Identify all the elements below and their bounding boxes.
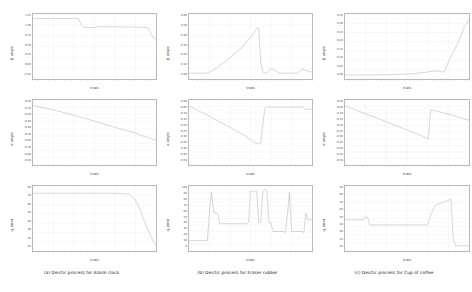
x-tick-label: – — [352, 80, 355, 81]
x-tick-label: – — [468, 166, 471, 167]
y-tick-label: 0.60 — [181, 14, 187, 17]
x-tick-label: – — [298, 166, 301, 167]
plot-svg — [189, 186, 312, 251]
x-tick-label: – — [371, 166, 374, 167]
y-tick-label: 90 — [340, 186, 343, 189]
x-tick-label: – — [389, 166, 392, 167]
x-tick-label: – — [106, 80, 109, 81]
y-tick-label: 0.00 — [181, 100, 187, 103]
x-tick-label: – — [380, 252, 383, 253]
x-axis-label: trials — [344, 172, 470, 176]
x-tick-label: – — [58, 252, 61, 253]
x-tick-label: – — [449, 166, 452, 167]
x-tick-marks: –––––––––––––––––––––––––––– — [344, 251, 470, 256]
x-tick-label: – — [362, 80, 365, 81]
x-tick-label: – — [366, 80, 369, 81]
y-tick-label: -0.50 — [180, 159, 187, 162]
y-tick-label: 0.00 — [337, 73, 343, 76]
x-tick-label: – — [53, 252, 56, 253]
x-axis-label: trials — [188, 258, 313, 262]
x-tick-label: – — [264, 80, 267, 81]
plot-area — [344, 185, 470, 252]
y-tick-label: 0 — [185, 245, 187, 248]
x-tick-label: – — [394, 80, 397, 81]
x-tick-label: – — [251, 166, 254, 167]
x-tick-label: – — [217, 166, 220, 167]
x-tick-label: – — [53, 80, 56, 81]
plot-area — [32, 13, 157, 80]
x-tick-label: – — [260, 166, 263, 167]
x-tick-label: – — [311, 166, 314, 167]
y-tick-label: 100 — [182, 186, 187, 189]
x-tick-label: – — [348, 252, 351, 253]
x-tick-label: – — [268, 80, 271, 81]
gridlines — [33, 14, 156, 79]
plot-svg — [345, 100, 469, 165]
x-tick-label: – — [204, 252, 207, 253]
x-tick-label: – — [42, 252, 45, 253]
x-tick-label: – — [247, 252, 250, 253]
x-tick-label: – — [117, 166, 120, 167]
y-tick-label: 0.30 — [337, 22, 343, 25]
x-tick-label: – — [412, 252, 415, 253]
x-tick-label: – — [289, 252, 292, 253]
y-tick-label: 30 — [28, 228, 31, 231]
y-tick-label: 50 — [28, 211, 31, 214]
x-tick-label: – — [112, 80, 115, 81]
x-tick-label: – — [225, 166, 228, 167]
x-tick-label: – — [112, 252, 115, 253]
y-tick-label: -0.10 — [24, 107, 31, 110]
x-tick-label: – — [36, 80, 39, 81]
x-tick-label: – — [408, 80, 411, 81]
x-tick-label: – — [234, 80, 237, 81]
x-tick-label: – — [144, 166, 147, 167]
x-tick-label: – — [468, 80, 471, 81]
x-tick-label: – — [36, 166, 39, 167]
caption-b: (b) Deictic process for Eraser rubber — [160, 270, 315, 275]
x-tick-label: – — [281, 252, 284, 253]
x-tick-label: – — [79, 166, 82, 167]
x-tick-label: – — [348, 166, 351, 167]
x-tick-label: – — [139, 252, 142, 253]
x-tick-label: – — [196, 166, 199, 167]
x-tick-label: – — [417, 80, 420, 81]
y-tick-label: 0.30 — [181, 44, 187, 47]
y-tick-label: 0.10 — [337, 56, 343, 59]
panel-a-qerror: q_error 8070605040302010 –––––––––––––––… — [4, 182, 159, 267]
x-tick-label: – — [187, 80, 190, 81]
x-tick-label: – — [85, 166, 88, 167]
x-tick-label: – — [128, 166, 131, 167]
x-tick-label: – — [213, 80, 216, 81]
y-tick-label: -0.25 — [24, 73, 31, 76]
y-tick-label: -0.05 — [180, 106, 187, 109]
x-tick-label: – — [454, 166, 457, 167]
x-tick-label: – — [149, 166, 152, 167]
x-tick-label: – — [225, 80, 228, 81]
y-tick-label: 20 — [28, 237, 31, 240]
y-tick-label: -0.25 — [180, 130, 187, 133]
panel-c-alpha: α angle 0.00-0.05-0.10-0.15-0.20-0.25-0.… — [316, 96, 472, 181]
x-tick-label: – — [133, 166, 136, 167]
x-tick-label: – — [454, 80, 457, 81]
x-tick-label: – — [348, 80, 351, 81]
x-tick-label: – — [264, 252, 267, 253]
y-tick-label: 0.00 — [337, 100, 343, 103]
x-tick-label: – — [47, 252, 50, 253]
x-axis-label: trials — [188, 172, 313, 176]
x-tick-marks: –––––––––––––––––––––––– — [32, 251, 157, 256]
x-tick-label: – — [221, 252, 224, 253]
x-tick-label: – — [375, 80, 378, 81]
x-tick-label: – — [128, 80, 131, 81]
x-tick-label: – — [445, 166, 448, 167]
x-tick-label: – — [302, 80, 305, 81]
x-tick-label: – — [112, 166, 115, 167]
x-tick-label: – — [352, 166, 355, 167]
x-tick-label: – — [149, 80, 152, 81]
x-tick-label: – — [101, 80, 104, 81]
y-tick-label: 0.00 — [181, 73, 187, 76]
x-tick-label: – — [58, 166, 61, 167]
x-tick-label: – — [63, 166, 66, 167]
x-tick-label: – — [362, 252, 365, 253]
x-tick-label: – — [371, 80, 374, 81]
y-tick-label: 80 — [340, 193, 343, 196]
